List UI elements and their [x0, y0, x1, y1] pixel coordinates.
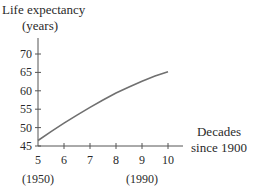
x-year-annotation: (1990): [126, 172, 158, 186]
x-tick-label: 5: [35, 153, 41, 167]
x-tick-label: 9: [139, 153, 145, 167]
y-axis-label-line2: (years): [22, 18, 58, 33]
x-axis-label-line2: since 1900: [191, 140, 247, 155]
x-tick-label: 8: [113, 153, 119, 167]
x-annotations: (1950)(1990): [22, 172, 158, 186]
axes: [38, 38, 183, 146]
y-tick-label: 60: [20, 84, 32, 98]
y-tick-label: 50: [20, 121, 32, 135]
y-tick-label: 55: [20, 102, 32, 116]
x-tick-label: 6: [61, 153, 67, 167]
y-tick-label: 70: [20, 47, 32, 61]
life-expectancy-chart: Life expectancy (years) 455055606570 567…: [0, 0, 253, 191]
life-expectancy-curve: [38, 72, 168, 141]
y-tick-label: 65: [20, 65, 32, 79]
x-tick-label: 10: [162, 153, 174, 167]
x-axis-label-line1: Decades: [197, 124, 241, 139]
y-tick-label: 45: [20, 139, 32, 153]
y-axis-label-line1: Life expectancy: [2, 2, 86, 17]
x-year-annotation: (1950): [22, 172, 54, 186]
x-ticks: 5678910: [35, 143, 174, 167]
x-tick-label: 7: [87, 153, 93, 167]
